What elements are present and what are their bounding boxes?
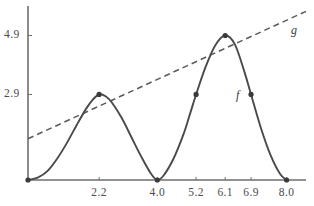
- data-point-marker: [248, 92, 253, 97]
- series-g-label: g: [291, 24, 297, 36]
- series-f-label: f: [236, 89, 239, 101]
- plot-canvas: [0, 0, 314, 206]
- data-point-marker: [97, 92, 102, 97]
- figure-container: 2.94.9 2.24.05.26.16.98.0 f g: [0, 0, 314, 206]
- data-point-markers: [25, 33, 289, 183]
- x-tick-label: 2.2: [91, 187, 107, 199]
- x-tick-label: 4.0: [150, 187, 166, 199]
- data-point-marker: [155, 177, 160, 182]
- series-g-dashed-line: [28, 11, 306, 138]
- y-tick-label: 2.9: [4, 89, 20, 101]
- x-tick-label: 6.9: [243, 187, 259, 199]
- data-point-marker: [284, 177, 289, 182]
- data-point-marker: [25, 177, 30, 182]
- series-f-curve: [28, 35, 287, 180]
- y-tick-label: 4.9: [4, 30, 20, 42]
- x-tick-label: 5.2: [188, 187, 204, 199]
- x-tick-label: 8.0: [279, 187, 295, 199]
- x-tick-label: 6.1: [217, 187, 233, 199]
- data-point-marker: [223, 33, 228, 38]
- data-point-marker: [193, 92, 198, 97]
